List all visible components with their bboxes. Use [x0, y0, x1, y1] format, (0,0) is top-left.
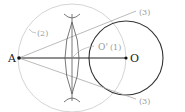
- construction-diagram: A O O' (1) (2) (3) (3): [0, 0, 185, 112]
- label-step3-bottom: (3): [139, 97, 150, 106]
- tangent-line-bottom: [19, 58, 136, 99]
- label-o: O: [130, 52, 139, 65]
- point-o: [124, 56, 127, 59]
- label-step2: (2): [37, 29, 48, 38]
- label-a: A: [7, 52, 17, 65]
- step2-leader: [29, 29, 36, 33]
- label-step3-top: (3): [139, 8, 150, 17]
- label-step1: (1): [110, 43, 121, 52]
- label-o-prime: O': [98, 42, 108, 52]
- point-a: [17, 56, 21, 60]
- point-o-prime: [71, 57, 73, 59]
